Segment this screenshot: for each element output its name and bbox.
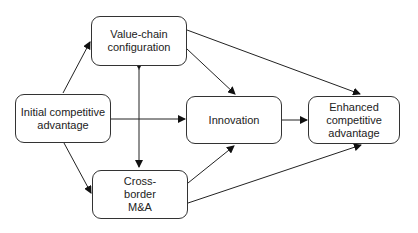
node-label: Enhanced competitive advantage	[321, 101, 387, 140]
node-label: Cross-border M&A	[111, 175, 169, 214]
node-initial-competitive-advantage: Initial competitive advantage	[15, 94, 111, 143]
node-label: Initial competitive advantage	[18, 106, 108, 132]
node-innovation: Innovation	[186, 96, 282, 144]
edge-valuechain-to-enhanced	[187, 30, 360, 94]
edge-crossborder-to-innovation	[188, 146, 234, 183]
node-cross-border-ma: Cross-border M&A	[92, 170, 188, 219]
edge-initial-to-valuechain	[63, 42, 90, 93]
node-label: Innovation	[209, 114, 260, 127]
edge-initial-to-crossborder	[64, 143, 91, 193]
node-label: Value-chain configuration	[94, 28, 184, 54]
node-value-chain-configuration: Value-chain configuration	[91, 16, 187, 66]
node-enhanced-competitive-advantage: Enhanced competitive advantage	[308, 96, 400, 144]
edge-valuechain-to-innovation	[187, 49, 235, 94]
edge-crossborder-to-enhanced	[188, 145, 361, 203]
